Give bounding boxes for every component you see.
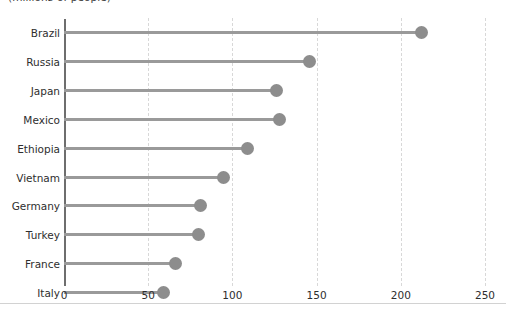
x-axis-tick-label: 0 (61, 289, 68, 301)
lollipop-row[interactable]: Mexico (0, 111, 506, 129)
lollipop-dot[interactable] (273, 113, 286, 126)
lollipop-stem (64, 176, 224, 179)
lollipop-dot[interactable] (169, 257, 182, 270)
lollipop-dot[interactable] (194, 199, 207, 212)
lollipop-row[interactable]: Ethiopia (0, 140, 506, 158)
category-label: Ethiopia (17, 142, 60, 156)
footer-rule (0, 303, 506, 304)
category-label: Japan (31, 84, 60, 98)
plot-area: BrazilRussiaJapanMexicoEthiopiaVietnamGe… (0, 0, 506, 315)
x-axis-tick-label: 250 (475, 289, 495, 301)
lollipop-stem (64, 204, 200, 207)
lollipop-stem (64, 262, 175, 265)
lollipop-row[interactable]: Vietnam (0, 169, 506, 187)
lollipop-stem (64, 118, 280, 121)
lollipop-stem (64, 233, 199, 236)
x-axis-tick-label: 150 (307, 289, 327, 301)
lollipop-row[interactable]: Japan (0, 82, 506, 100)
lollipop-dot[interactable] (303, 55, 316, 68)
category-label: Germany (12, 199, 60, 213)
x-axis-tick-label: 100 (222, 289, 242, 301)
lollipop-dot[interactable] (270, 84, 283, 97)
lollipop-row[interactable]: Turkey (0, 226, 506, 244)
lollipop-dot[interactable] (415, 26, 428, 39)
category-label: Vietnam (16, 171, 60, 185)
chart-page: (millions of people) BrazilRussiaJapanMe… (0, 0, 506, 315)
lollipop-stem (64, 147, 248, 150)
category-label: Brazil (31, 26, 60, 40)
category-label: France (25, 257, 60, 271)
lollipop-row[interactable]: Italy (0, 284, 506, 302)
lollipop-row[interactable]: Russia (0, 53, 506, 71)
lollipop-dot[interactable] (157, 286, 170, 299)
category-label: Mexico (23, 113, 60, 127)
lollipop-dot[interactable] (192, 228, 205, 241)
lollipop-row[interactable]: Germany (0, 197, 506, 215)
lollipop-row[interactable]: Brazil (0, 24, 506, 42)
lollipop-dot[interactable] (241, 142, 254, 155)
lollipop-stem (64, 31, 421, 34)
lollipop-row[interactable]: France (0, 255, 506, 273)
lollipop-stem (64, 60, 310, 63)
x-axis-tick-label: 50 (142, 289, 155, 301)
x-axis-tick-label: 200 (391, 289, 411, 301)
category-label: Turkey (26, 228, 60, 242)
lollipop-dot[interactable] (217, 171, 230, 184)
category-label: Italy (37, 286, 60, 300)
category-label: Russia (26, 55, 60, 69)
lollipop-stem (64, 89, 276, 92)
